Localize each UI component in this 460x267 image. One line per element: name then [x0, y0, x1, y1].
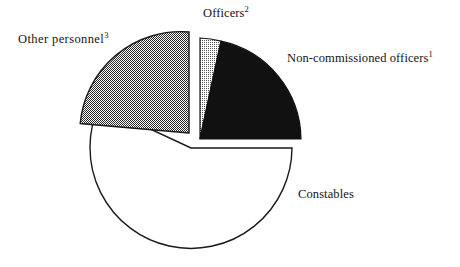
- pie-chart-figure: Other personnel3 Officers2 Non-commissio…: [0, 0, 460, 267]
- pie-label-officers-text: Officers: [203, 6, 245, 20]
- pie-label-other-personnel: Other personnel3: [18, 33, 109, 47]
- pie-label-non-commissioned-officers: Non-commissioned officers1: [287, 52, 433, 66]
- pie-label-officers-footnote: 2: [245, 4, 249, 14]
- pie-label-other-personnel-footnote: 3: [104, 30, 109, 40]
- pie-label-constables: Constables: [298, 188, 354, 202]
- pie-label-officers: Officers2: [203, 7, 249, 21]
- pie-label-other-personnel-text: Other personnel: [18, 32, 104, 46]
- pie-label-non-commissioned-officers-footnote: 1: [428, 49, 432, 59]
- pie-slice-other-personnel[interactable]: [80, 32, 189, 133]
- pie-label-non-commissioned-officers-text: Non-commissioned officers: [287, 51, 428, 65]
- pie-label-constables-text: Constables: [298, 187, 354, 201]
